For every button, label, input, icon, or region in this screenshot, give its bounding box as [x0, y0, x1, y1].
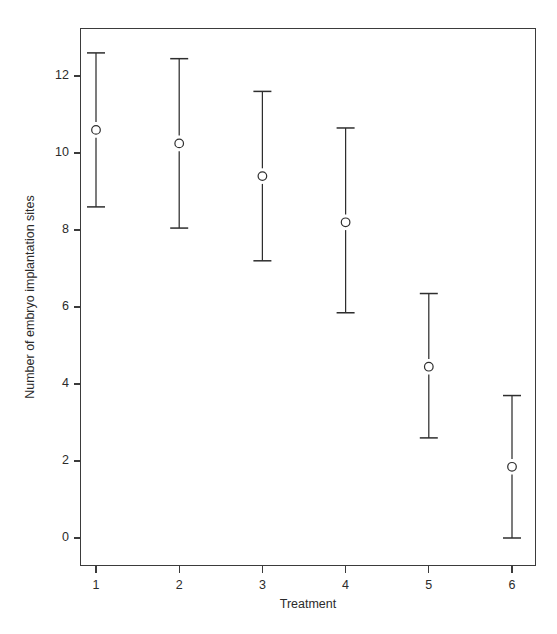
y-tick-label-10: 10: [55, 145, 69, 159]
y-tick-label-8: 8: [62, 222, 69, 236]
y-tick-label-4: 4: [62, 376, 69, 390]
x-tick-label-2: 2: [176, 578, 183, 592]
chart-figure: 0 2 4 6 8 10 1: [0, 0, 557, 634]
y-tick-label-0: 0: [62, 530, 69, 544]
x-tick-label-5: 5: [425, 578, 432, 592]
y-tick-label-12: 12: [55, 68, 69, 82]
data-point-marker-5: [425, 362, 434, 371]
x-tick-label-1: 1: [93, 578, 100, 592]
data-point-marker-4: [341, 218, 350, 227]
y-tick-label-2: 2: [62, 453, 69, 467]
x-tick-label-4: 4: [342, 578, 349, 592]
x-axis-title: Treatment: [280, 597, 337, 611]
data-point-marker-2: [175, 139, 184, 148]
data-point-marker-1: [92, 126, 101, 135]
scatter-errorbar-plot: 0 2 4 6 8 10 1: [0, 0, 557, 634]
x-tick-label-6: 6: [509, 578, 516, 592]
y-tick-label-6: 6: [62, 299, 69, 313]
y-axis-title: Number of embryo implantation sites: [23, 195, 37, 399]
figure-background: [0, 0, 557, 634]
x-tick-label-3: 3: [259, 578, 266, 592]
data-point-marker-6: [508, 462, 517, 471]
data-point-marker-3: [258, 172, 267, 181]
